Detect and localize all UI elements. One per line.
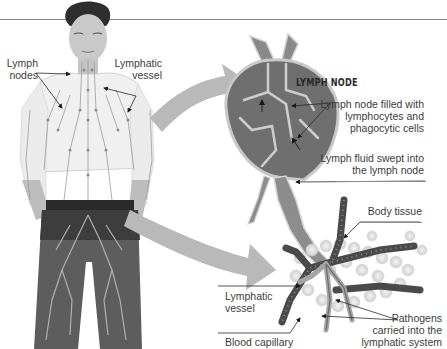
label-line: Lymph bbox=[4, 57, 38, 69]
label-lymph-nodes: Lymph nodes bbox=[4, 57, 38, 81]
label-line: Lymphatic bbox=[112, 57, 162, 69]
label-pathogens: Pathogens carried into the lymphatic sys… bbox=[334, 312, 442, 348]
body-tissue-illustration bbox=[282, 200, 427, 330]
label-line: vessel bbox=[112, 69, 162, 81]
label-line: Lymph node filled with bbox=[320, 98, 424, 110]
label-line: nodes bbox=[4, 69, 38, 81]
underline-fluid bbox=[336, 181, 426, 182]
label-lymph-fluid-swept: Lymph fluid swept into the lymph node bbox=[320, 152, 424, 176]
person-figure bbox=[20, 2, 154, 349]
lymph-node-illustration bbox=[226, 34, 338, 268]
label-line: Lymph fluid swept into bbox=[320, 152, 424, 164]
label-node-filled: Lymph node filled with lymphocytes and p… bbox=[320, 98, 424, 134]
label-line: lymphocytes and bbox=[320, 110, 424, 122]
underline-body-tissue bbox=[360, 222, 422, 223]
label-line: Pathogens bbox=[334, 312, 442, 324]
label-blood-capillary: Blood capillary bbox=[225, 336, 293, 348]
label-line: Lymphatic bbox=[225, 290, 272, 302]
label-line: phagocytic cells bbox=[320, 122, 424, 134]
label-line: lymphatic system bbox=[334, 336, 442, 348]
label-line: carried into the bbox=[334, 324, 442, 336]
label-line: the lymph node bbox=[320, 164, 424, 176]
label-body-tissue: Body tissue bbox=[360, 205, 422, 217]
label-lymphatic-vessel-top: Lymphatic vessel bbox=[112, 57, 162, 81]
lymph-node-title: LYMPH NODE bbox=[296, 77, 358, 88]
label-lymphatic-vessel-bottom: Lymphatic vessel bbox=[225, 290, 272, 314]
label-line: vessel bbox=[225, 302, 272, 314]
